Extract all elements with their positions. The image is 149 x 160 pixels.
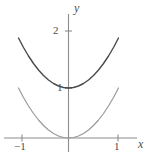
x-tick-label-one: 1 [114, 141, 120, 152]
y-tick-label-2: 2 [53, 25, 59, 36]
x-axis-label: x [138, 138, 143, 150]
figure-container: 2 1 −1 1 y x [0, 0, 149, 160]
y-axis-label: y [74, 2, 79, 14]
tick-mark-group [22, 31, 118, 142]
x-tick-label-negative-one: −1 [14, 141, 26, 152]
y-tick-label-1: 1 [57, 82, 63, 93]
axis-group [4, 14, 137, 152]
plot-canvas [0, 0, 149, 160]
